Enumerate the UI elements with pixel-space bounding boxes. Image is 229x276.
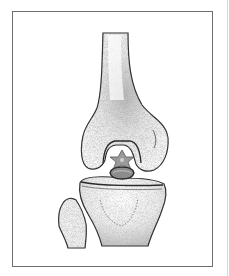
tibia: [79, 177, 165, 246]
femur: [81, 33, 168, 171]
ligament-stub: [110, 167, 134, 179]
knee-joint-illustration: [0, 0, 229, 276]
fibula: [59, 198, 87, 248]
